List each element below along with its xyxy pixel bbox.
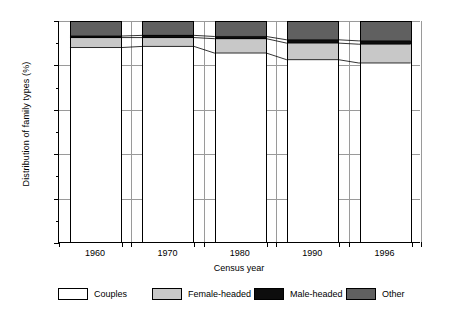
x-tick — [349, 242, 350, 247]
x-tick — [59, 242, 60, 247]
legend-item-male-headed[interactable]: Male-headed — [254, 288, 343, 300]
y-tick-major — [54, 110, 59, 111]
x-tick-label: 1990 — [282, 248, 342, 258]
bar-segment-couples[interactable] — [360, 63, 412, 243]
bar-segment-other[interactable] — [70, 21, 122, 36]
x-gridline — [131, 21, 132, 242]
x-tick — [131, 242, 132, 247]
bar-1980[interactable] — [215, 21, 267, 243]
legend-label: Other — [382, 289, 405, 299]
y-tick-minor — [56, 132, 59, 133]
light-gray-swatch — [152, 288, 182, 300]
x-tick — [267, 242, 268, 247]
bar-segment-other[interactable] — [360, 21, 412, 41]
bar-segment-female-headed[interactable] — [287, 43, 339, 60]
dark-gray-swatch — [346, 288, 376, 300]
bar-segment-female-headed[interactable] — [360, 44, 412, 63]
bar-segment-other[interactable] — [287, 21, 339, 40]
x-tick — [421, 242, 422, 247]
y-tick-minor — [56, 221, 59, 222]
bar-segment-male-headed[interactable] — [215, 37, 267, 39]
bar-1960[interactable] — [70, 21, 122, 243]
stacked-bar-chart-figure: Distribution of family types (%) 0204060… — [0, 0, 449, 312]
x-gridline — [349, 21, 350, 242]
x-tick-label: 1996 — [355, 248, 415, 258]
bar-segment-couples[interactable] — [287, 60, 339, 243]
legend-item-other[interactable]: Other — [346, 288, 405, 300]
y-tick-minor — [56, 43, 59, 44]
bar-segment-male-headed[interactable] — [287, 40, 339, 43]
x-tick — [339, 242, 340, 247]
bar-1990[interactable] — [287, 21, 339, 243]
y-tick-major — [54, 21, 59, 22]
bar-segment-female-headed[interactable] — [70, 38, 122, 48]
bar-segment-couples[interactable] — [215, 53, 267, 243]
plot-area — [58, 21, 420, 243]
x-tick — [204, 242, 205, 247]
y-tick-minor — [56, 88, 59, 89]
x-tick-label: 1960 — [65, 248, 125, 258]
y-tick-major — [54, 154, 59, 155]
x-gridline — [421, 21, 422, 242]
bar-segment-other[interactable] — [142, 21, 194, 35]
white-swatch — [58, 288, 88, 300]
bar-segment-female-headed[interactable] — [215, 39, 267, 53]
y-tick-major — [54, 65, 59, 66]
x-axis-title: Census year — [58, 263, 420, 273]
x-tick-label: 1980 — [210, 248, 270, 258]
bar-segment-male-headed[interactable] — [70, 36, 122, 38]
bar-segment-couples[interactable] — [142, 47, 194, 243]
chart-legend: CouplesFemale-headedMale-headedOther — [58, 286, 438, 302]
y-axis-title: Distribution of family types (%) — [21, 24, 31, 224]
x-gridline — [204, 21, 205, 242]
bar-1996[interactable] — [360, 21, 412, 243]
x-tick — [194, 242, 195, 247]
x-gridline — [276, 21, 277, 242]
black-swatch — [254, 288, 284, 300]
x-tick — [412, 242, 413, 247]
legend-label: Female-headed — [188, 289, 251, 299]
y-tick-major — [54, 199, 59, 200]
bar-1970[interactable] — [142, 21, 194, 243]
bar-segment-other[interactable] — [215, 21, 267, 37]
x-tick-label: 1970 — [137, 248, 197, 258]
legend-item-female-headed[interactable]: Female-headed — [152, 288, 251, 300]
bar-segment-male-headed[interactable] — [142, 35, 194, 37]
x-tick — [122, 242, 123, 247]
legend-label: Male-headed — [290, 289, 343, 299]
legend-label: Couples — [94, 289, 127, 299]
legend-item-couples[interactable]: Couples — [58, 288, 127, 300]
bar-segment-male-headed[interactable] — [360, 41, 412, 44]
y-tick-minor — [56, 176, 59, 177]
bar-segment-couples[interactable] — [70, 48, 122, 243]
x-tick — [276, 242, 277, 247]
bar-segment-female-headed[interactable] — [142, 38, 194, 47]
